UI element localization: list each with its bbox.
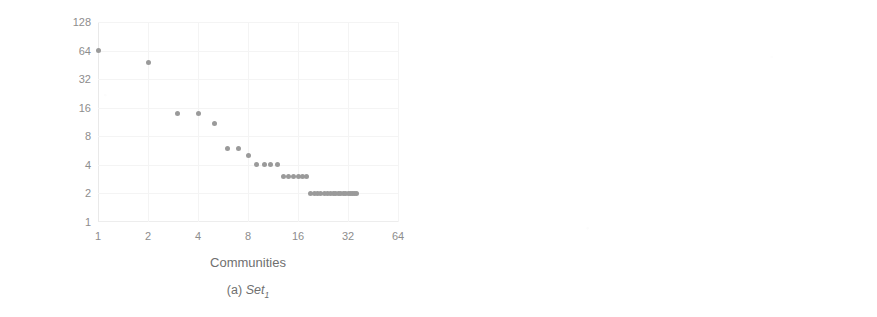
data-point	[246, 153, 251, 158]
figure-two-panel-scatter: Number of Vendors 1248163264128124816326…	[0, 0, 877, 317]
x-axis-tick-label: 8	[245, 230, 251, 242]
y-axis-tick-label: 32	[57, 73, 91, 85]
plot-area-panel-a: 12481632641281248163264	[98, 22, 398, 222]
gridline-vertical	[248, 22, 249, 222]
data-point	[354, 191, 359, 196]
data-point	[281, 174, 286, 179]
gridline-vertical	[198, 22, 199, 222]
y-axis-tick-label: 2	[57, 187, 91, 199]
data-point	[262, 162, 267, 167]
x-axis-tick-label: 16	[292, 230, 304, 242]
data-point	[196, 111, 201, 116]
caption-panel-a: (a) Set1	[98, 283, 398, 300]
data-point	[236, 146, 241, 151]
data-point	[146, 60, 151, 65]
data-point	[175, 111, 180, 116]
x-axis-tick-label: 2	[145, 230, 151, 242]
y-axis-tick-label: 128	[57, 16, 91, 28]
caption-name-a: Set	[246, 283, 265, 297]
y-axis-tick-label: 64	[57, 45, 91, 57]
data-point	[96, 48, 101, 53]
gridline-vertical	[148, 22, 149, 222]
panel-set2: Number of Vendors 1248163264128124816326…	[438, 0, 876, 317]
x-axis-tick-label: 64	[392, 230, 404, 242]
panel-set1: Number of Vendors 1248163264128124816326…	[0, 0, 438, 317]
y-axis-tick-label: 1	[57, 216, 91, 228]
data-point	[225, 146, 230, 151]
gridline-vertical	[398, 22, 399, 222]
x-axis-tick-label: 32	[342, 230, 354, 242]
gridline-vertical	[298, 22, 299, 222]
caption-prefix-a: (a)	[227, 283, 242, 297]
y-axis-title-panel-a: Number of Vendors	[14, 0, 32, 22]
data-point	[212, 121, 217, 126]
caption-sub-a: 1	[264, 290, 269, 300]
x-axis-tick-label: 4	[195, 230, 201, 242]
x-axis-tick-label: 1	[95, 230, 101, 242]
y-axis-tick-label: 8	[57, 130, 91, 142]
x-axis-title-panel-a: Communities	[98, 255, 398, 270]
y-axis-tick-label: 16	[57, 102, 91, 114]
y-axis-tick-label: 4	[57, 159, 91, 171]
